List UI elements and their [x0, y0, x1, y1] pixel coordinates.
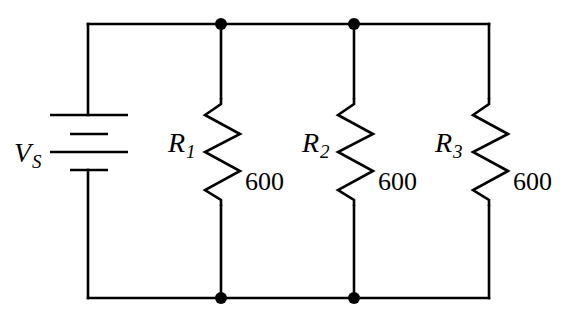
junction-dot	[348, 18, 360, 30]
junction-dot	[348, 292, 360, 304]
junctions	[215, 18, 360, 304]
resistor-r1-icon	[205, 98, 240, 206]
junction-dot	[215, 292, 227, 304]
r3-label: R3	[434, 127, 463, 162]
resistor-r2-icon	[338, 98, 373, 206]
r3-value: 600	[513, 167, 552, 196]
r2-value: 600	[378, 167, 417, 196]
r1-label: R1	[167, 127, 196, 162]
r1-value: 600	[245, 167, 284, 196]
voltage-source-icon	[50, 115, 128, 170]
resistor-r3-icon	[473, 98, 508, 206]
junction-dot	[215, 18, 227, 30]
source-label: VS	[14, 137, 42, 172]
circuit-diagram: VS R1 600 R2 600 R3 600	[0, 0, 579, 319]
wires	[88, 24, 489, 298]
r2-label: R2	[301, 127, 330, 162]
